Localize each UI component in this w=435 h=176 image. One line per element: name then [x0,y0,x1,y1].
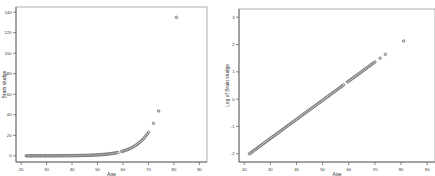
y-tick-label: 0 [232,97,235,102]
x-axis-label: Age [107,171,116,176]
x-tick-label: 20 [242,167,247,172]
x-tick-label: 60 [121,167,126,172]
y-tick-label: 100 [5,51,13,56]
y-tick-label: 20 [7,133,12,138]
y-tick-label: 1 [232,69,235,74]
y-tick-label: -1 [231,124,235,129]
x-tick-label: 60 [346,167,351,172]
y-tick-label: 0 [9,153,12,158]
x-tick-label: 80 [172,167,177,172]
data-point [152,122,155,125]
y-tick-label: 120 [5,30,13,35]
y-tick-label: 60 [7,92,12,97]
x-tick-label: 50 [95,167,100,172]
x-tick-label: 70 [146,167,151,172]
y-tick-label: 40 [7,112,12,117]
x-tick-label: 20 [19,167,24,172]
plot-frame [16,7,207,162]
x-tick-label: 90 [425,167,430,172]
x-tick-label: 80 [399,167,404,172]
y-tick-label: 80 [7,71,12,76]
x-tick-label: 40 [70,167,75,172]
data-point [175,16,178,19]
brain-sludge-scatter-plot: 2030405060708090020406080100120140AgeBra… [0,0,218,176]
data-point [374,61,377,64]
data-points [248,40,405,155]
y-tick-label: -2 [231,151,235,156]
data-point [379,57,382,60]
x-tick-label: 90 [197,167,202,172]
y-tick-label: 2 [232,42,235,47]
x-tick-label: 30 [44,167,49,172]
data-point [157,110,160,113]
right-chart: 2030405060708090-2-10123AgeLog of Brain … [218,0,435,176]
data-points [25,16,178,157]
y-axis-label: Log of Brain sludge [224,64,230,107]
data-point [147,131,150,134]
x-tick-label: 30 [268,167,273,172]
x-tick-label: 50 [320,167,325,172]
x-axis-label: Age [333,171,342,176]
y-tick-label: 3 [232,15,235,20]
x-tick-label: 70 [373,167,378,172]
x-tick-label: 40 [294,167,299,172]
y-tick-label: 140 [5,10,13,15]
data-point [342,84,345,87]
log-brain-sludge-scatter-plot: 2030405060708090-2-10123AgeLog of Brain … [218,0,435,176]
data-point [117,151,120,154]
y-axis-label: Brain sludge [1,70,7,98]
data-point [384,53,387,56]
left-chart: 2030405060708090020406080100120140AgeBra… [0,0,218,176]
data-point [402,40,405,43]
